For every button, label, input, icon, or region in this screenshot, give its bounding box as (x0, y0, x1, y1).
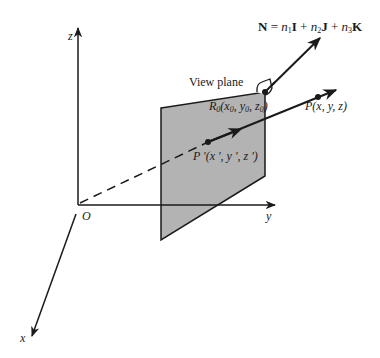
p-prime-label: P '(x ', y ', z ') (193, 150, 258, 162)
n-symbol: N (258, 19, 267, 34)
x-axis-label: x (20, 332, 25, 344)
z-axis-label: z (68, 30, 73, 42)
point-r0 (262, 89, 268, 95)
y-axis-label: y (266, 210, 271, 222)
x-axis (32, 214, 76, 336)
view-plane (161, 92, 265, 240)
view-plane-label: View plane (189, 76, 243, 88)
normal-vector-equation: N = n1I + n2J + n3K (258, 20, 362, 35)
diagram-canvas (0, 0, 380, 358)
point-p-prime (205, 139, 211, 145)
origin-label: O (82, 210, 91, 222)
p-label: P(x, y, z) (305, 100, 347, 112)
r0-label: R0(x0, y0, z0) (209, 100, 268, 114)
